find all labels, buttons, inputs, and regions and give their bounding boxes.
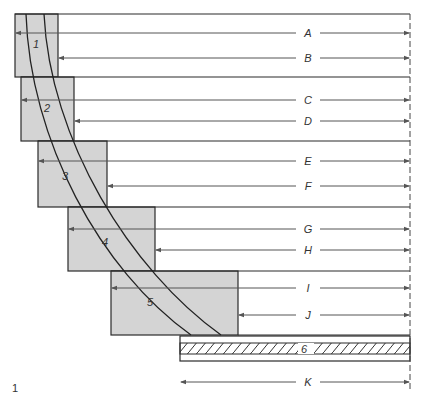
- dimension-label-j: J: [304, 309, 311, 321]
- dimension-k: K: [181, 376, 409, 388]
- dimension-f: F: [108, 180, 409, 192]
- dimension-d: D: [75, 115, 409, 127]
- dimension-label-b: B: [304, 52, 311, 64]
- dimension-b: B: [59, 52, 409, 64]
- cut-block-3: [38, 141, 107, 207]
- block-label-5: 5: [147, 296, 154, 308]
- dimension-label-h: H: [304, 244, 312, 256]
- dimension-label-g: G: [304, 223, 313, 235]
- dimension-label-f: F: [305, 180, 313, 192]
- dimension-c: C: [22, 94, 409, 106]
- dimension-a: A: [16, 27, 409, 39]
- dimension-label-c: C: [304, 94, 312, 106]
- block-label-1: 1: [33, 38, 39, 50]
- strip-label-6: 6: [301, 343, 308, 355]
- dimension-label-k: K: [304, 376, 312, 388]
- figure-number: 1: [12, 382, 18, 394]
- dimension-label-e: E: [304, 155, 312, 167]
- dimension-label-i: I: [306, 282, 309, 294]
- dimension-j: J: [239, 309, 409, 321]
- block-label-3: 3: [62, 170, 69, 182]
- block-label-2: 2: [43, 102, 50, 114]
- cut-block-5: [111, 271, 238, 335]
- dimension-label-a: A: [303, 27, 311, 39]
- block-label-4: 4: [102, 236, 108, 248]
- dimension-h: H: [156, 244, 409, 256]
- dimension-label-d: D: [304, 115, 312, 127]
- hatched-layer: [180, 343, 410, 354]
- stepped-cut-diagram: 6 ABCDEFGHIJK 12345 1: [0, 0, 425, 406]
